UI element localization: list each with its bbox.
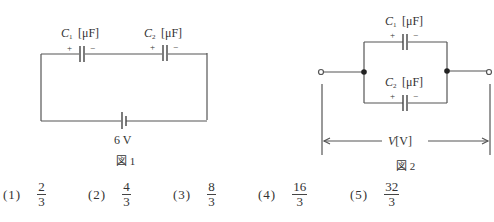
c2-minus-sign: −: [173, 42, 178, 52]
fraction: 43: [122, 180, 131, 209]
choice-1[interactable]: (1) 23: [3, 180, 46, 209]
choice-number: (3): [173, 187, 191, 203]
c2-unit: [μF]: [402, 75, 423, 89]
fraction: 23: [37, 180, 46, 209]
choice-number: (4): [258, 187, 276, 203]
figure-2-caption: 図 2: [396, 160, 415, 172]
c2-plus-sign: +: [150, 42, 155, 52]
c1-unit: [μF]: [402, 14, 423, 28]
c2-minus-sign: −: [413, 91, 418, 101]
c2-unit: [μF]: [161, 26, 182, 40]
fraction: 83: [207, 180, 216, 209]
choice-number: (2): [88, 187, 106, 203]
choice-2[interactable]: (2) 43: [88, 180, 131, 209]
capacitor-c2-symbol: [403, 95, 407, 111]
capacitor-c1-symbol: [80, 46, 84, 62]
c2-label: C2: [385, 75, 397, 90]
c1-minus-sign: −: [90, 43, 95, 53]
c1-plus-sign: +: [67, 43, 72, 53]
c2-plus-sign: +: [390, 91, 395, 101]
choice-3[interactable]: (3) 83: [173, 180, 216, 209]
choice-5[interactable]: (5) 323: [350, 180, 399, 209]
figure-1-caption: 図 1: [116, 155, 135, 167]
c1-unit: [μF]: [78, 26, 99, 40]
answer-choices: (1) 23 (2) 43 (3) 83 (4) 163 (5) 323: [0, 180, 494, 222]
choice-number: (5): [350, 187, 368, 203]
battery-voltage-label: 6 V: [114, 133, 132, 147]
figure-2-parallel-circuit: C1 [μF] + − C2 [μF] + − V[V] 図 2: [250, 0, 494, 180]
choice-number: (1): [3, 187, 21, 203]
battery-symbol: [122, 112, 126, 129]
c1-plus-sign: +: [390, 30, 395, 40]
capacitor-c2-symbol: [163, 45, 167, 61]
fraction: 323: [384, 180, 399, 209]
figure-1-series-circuit: C1 [μF] + − C2 [μF] + − 6 V 図 1: [0, 0, 250, 170]
junction-dot-right: [444, 68, 450, 74]
c1-label: C1: [61, 26, 73, 41]
choice-4[interactable]: (4) 163: [258, 180, 307, 209]
junction-dot-left: [361, 69, 367, 75]
c1-minus-sign: −: [413, 30, 418, 40]
fraction: 163: [292, 180, 307, 209]
capacitor-c1-symbol: [403, 34, 407, 50]
c2-label: C2: [144, 26, 156, 41]
c1-label: C1: [385, 14, 397, 29]
voltage-label: V[V]: [388, 134, 412, 148]
